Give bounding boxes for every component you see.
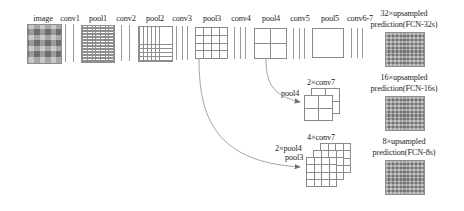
arrow-pool3-to-fcn8s <box>199 59 300 167</box>
fusion-layer-pool4 <box>304 95 333 121</box>
fcn-architecture-diagram: image conv1 pool1 conv2 pool2 conv3 pool… <box>0 0 464 211</box>
skip-connection-arrows <box>0 0 464 211</box>
fusion-layer-pool3 <box>306 157 337 187</box>
arrow-pool4-to-fcn16s <box>266 59 300 102</box>
